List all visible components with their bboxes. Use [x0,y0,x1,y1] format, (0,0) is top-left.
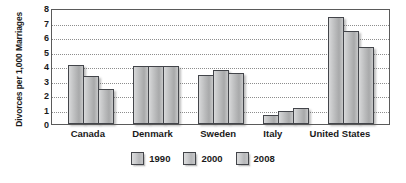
legend-swatch-2000 [183,152,196,165]
bar-sweden-2000 [213,70,229,124]
bar-group-denmark [133,10,178,124]
legend-swatch-2008 [236,152,249,165]
y-tick-0: 0 [36,121,49,130]
legend-label-1990: 1990 [149,154,170,164]
y-tick-7: 7 [36,19,49,28]
bar-united-states-2000 [343,31,359,124]
category-label-italy: Italy [263,127,282,143]
bar-united-states-2008 [358,47,374,124]
y-tick-4: 4 [36,63,49,72]
bar-united-states-1990 [328,17,344,124]
y-axis-tick-labels: 876543210 [36,9,49,125]
legend-item-2000[interactable]: 2000 [183,152,222,165]
category-label-canada: Canada [71,127,105,143]
bar-denmark-2000 [148,66,164,124]
category-label-united-states: United States [310,127,371,143]
bar-chart: Divorces per 1,000 Marriages 876543210 C… [0,0,406,183]
y-axis-title: Divorces per 1,000 Marriages [2,8,36,130]
legend-item-2008[interactable]: 2008 [236,152,275,165]
y-tick-2: 2 [36,92,49,101]
bar-group-canada [68,10,113,124]
bar-group-sweden [198,10,243,124]
category-label-sweden: Sweden [200,127,236,143]
bar-italy-2000 [278,111,294,124]
bar-italy-1990 [263,115,279,124]
y-axis-title-text: Divorces per 1,000 Marriages [14,12,25,127]
legend: 199020002008 [0,152,406,165]
bar-groups [52,10,389,124]
legend-label-2008: 2008 [254,154,275,164]
bar-group-united-states [328,10,373,124]
x-axis-category-labels: CanadaDenmarkSwedenItalyUnited States [51,127,390,143]
bar-canada-2000 [83,76,99,124]
bar-canada-2008 [98,89,114,124]
bar-group-italy [263,10,308,124]
y-tick-5: 5 [36,48,49,57]
y-tick-6: 6 [36,34,49,43]
y-tick-1: 1 [36,106,49,115]
legend-item-1990[interactable]: 1990 [131,152,170,165]
bar-italy-2008 [293,108,309,124]
plot-area [51,9,390,125]
y-tick-8: 8 [36,5,49,14]
bar-sweden-1990 [198,75,214,124]
bar-sweden-2008 [228,73,244,124]
category-label-denmark: Denmark [132,127,173,143]
y-tick-3: 3 [36,77,49,86]
bar-denmark-1990 [133,66,149,124]
bar-canada-1990 [68,65,84,124]
legend-swatch-1990 [131,152,144,165]
legend-label-2000: 2000 [201,154,222,164]
bar-denmark-2008 [163,66,179,124]
